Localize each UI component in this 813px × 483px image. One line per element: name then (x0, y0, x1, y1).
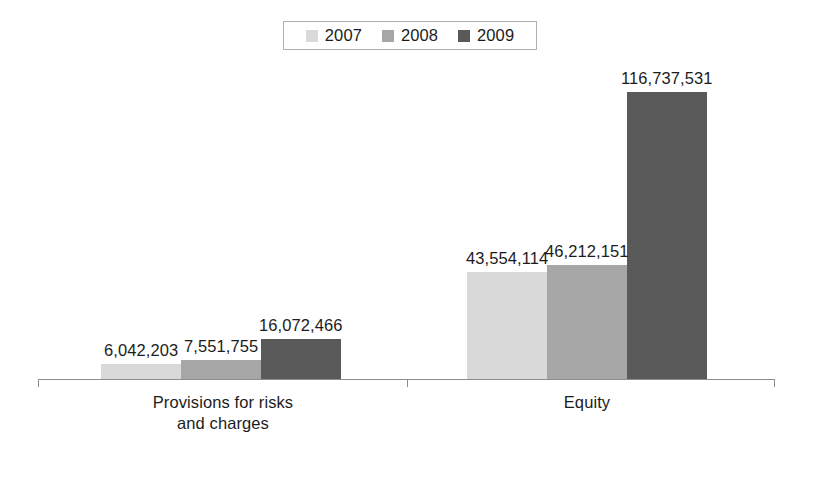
axis-tick-group-separator (407, 379, 408, 387)
value-label-equity-2008: 46,212,151 (545, 243, 629, 260)
axis-tick-end (774, 379, 775, 387)
bar-fill (261, 339, 341, 379)
bar-provisions-2009 (261, 339, 341, 379)
bar-provisions-2007 (101, 364, 181, 379)
category-label-provisions: Provisions for risks and charges (113, 392, 333, 434)
bar-provisions-2008 (181, 360, 261, 379)
bar-equity-2007 (467, 272, 547, 379)
category-label-equity: Equity (477, 392, 697, 413)
axis-tick-start (38, 379, 39, 387)
bar-fill (547, 265, 627, 379)
bar-equity-2008 (547, 265, 627, 379)
category-label-provisions-line2: and charges (113, 413, 333, 434)
bar-equity-2009 (627, 92, 707, 379)
bar-chart: 2007 2008 2009 (0, 0, 813, 483)
value-label-provisions-2008: 7,551,755 (184, 338, 258, 355)
value-label-equity-2009: 116,737,531 (621, 70, 713, 87)
bar-fill (101, 364, 181, 379)
value-label-provisions-2009: 16,072,466 (259, 317, 343, 334)
value-label-provisions-2007: 6,042,203 (104, 342, 178, 359)
category-label-provisions-line1: Provisions for risks (113, 392, 333, 413)
plot-area: 6,042,203 7,551,755 16,072,466 43,554,11… (0, 0, 813, 483)
value-label-equity-2007: 43,554,114 (466, 250, 548, 267)
bar-fill (467, 272, 547, 379)
category-label-equity-line1: Equity (477, 392, 697, 413)
bar-fill (627, 92, 707, 379)
bar-fill (181, 360, 261, 379)
